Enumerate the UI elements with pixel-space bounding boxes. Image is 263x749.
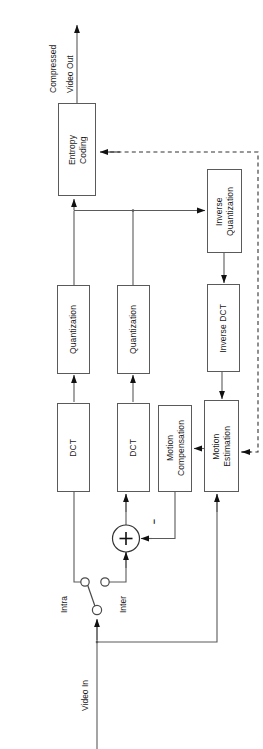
label-video-in: Video In (80, 672, 91, 718)
block-dct-intra-label: DCT (68, 439, 79, 457)
video-encoder-block-diagram: Entropy Coding Inverse Quantization Quan… (0, 0, 263, 749)
block-quantization-inter-label: Quantization (128, 305, 139, 354)
switch-blade[interactable] (88, 585, 95, 606)
label-switch-inter: Inter (118, 589, 129, 619)
label-adder-minus-sign: − (149, 519, 159, 524)
diagram-wires (0, 0, 263, 749)
wire-motion-comp-to-adder (141, 492, 175, 539)
block-motion-estimation-label: Motion Estimation (211, 426, 232, 467)
block-inverse-quantization-label: Inverse Quantization (214, 187, 235, 236)
wire-switch-inter-to-adder (105, 552, 126, 582)
wire-video-in-to-motion-estimation (97, 494, 217, 642)
block-quantization-inter[interactable]: Quantization (117, 285, 150, 374)
block-inverse-dct[interactable]: Inverse DCT (207, 284, 240, 372)
input-junction-dot (96, 641, 99, 644)
switch-contact-inter[interactable] (101, 578, 109, 586)
block-dct-inter[interactable]: DCT (117, 403, 150, 492)
bus-junction-dot (132, 209, 135, 212)
block-entropy-coding[interactable]: Entropy Coding (58, 103, 96, 196)
block-motion-compensation[interactable]: Motion Compensation (158, 405, 192, 492)
block-dct-intra[interactable]: DCT (57, 403, 90, 492)
block-quantization-intra[interactable]: Quantization (57, 285, 90, 374)
block-quantization-intra-label: Quantization (68, 305, 79, 354)
label-compressed: Compressed (48, 38, 59, 100)
block-inverse-quantization[interactable]: Inverse Quantization (207, 169, 242, 253)
block-entropy-coding-label: Entropy Coding (67, 135, 88, 165)
block-motion-estimation[interactable]: Motion Estimation (204, 400, 239, 492)
label-switch-intra: Intra (59, 589, 70, 619)
label-video-out: Video Out (65, 47, 76, 102)
block-inverse-dct-label: Inverse DCT (218, 304, 229, 353)
block-dct-inter-label: DCT (128, 439, 139, 457)
block-motion-compensation-label: Motion Compensation (165, 420, 186, 476)
switch-pivot[interactable] (92, 605, 101, 614)
